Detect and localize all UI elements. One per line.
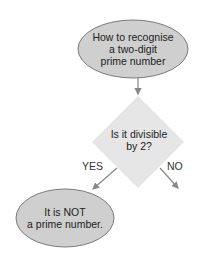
start-line-2: a two-digit xyxy=(83,43,183,55)
yes-label: YES xyxy=(82,160,103,172)
decision-label: Is it divisible by 2? xyxy=(98,128,180,152)
result-line-2: a prime number. xyxy=(18,218,112,230)
decision-line-2: by 2? xyxy=(98,140,180,152)
result-line-1: It is NOT xyxy=(18,206,112,218)
start-line-1: How to recognise xyxy=(83,31,183,43)
start-label: How to recognise a two-digit prime numbe… xyxy=(83,31,183,67)
result-label: It is NOT a prime number. xyxy=(18,206,112,230)
start-line-3: prime number xyxy=(83,55,183,67)
decision-line-1: Is it divisible xyxy=(98,128,180,140)
no-label: NO xyxy=(167,160,183,172)
